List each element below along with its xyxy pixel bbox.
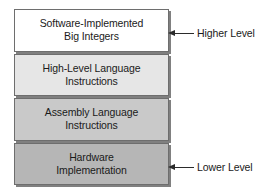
- annotation-lower-level: Lower Level: [168, 160, 253, 174]
- annotation-label-higher-level: Higher Level: [197, 27, 255, 40]
- layer-label-line1: Assembly Language: [45, 106, 138, 119]
- layer-label-line2: Instructions: [65, 75, 118, 88]
- layer-box-high-level-language-instructions[interactable]: High-Level Language Instructions: [14, 54, 169, 97]
- annotation-higher-level: Higher Level: [168, 26, 255, 40]
- layer-label-line2: Big Integers: [64, 30, 119, 43]
- layer-box-assembly-language-instructions[interactable]: Assembly Language Instructions: [14, 98, 169, 141]
- layer-box-hardware-implementation[interactable]: Hardware Implementation: [14, 143, 169, 186]
- arrow-left-icon: [168, 29, 194, 38]
- layer-label-line1: Software-Implemented: [40, 17, 144, 30]
- layer-label-line2: Implementation: [56, 164, 126, 177]
- annotation-label-lower-level: Lower Level: [197, 161, 253, 174]
- layer-box-software-implemented-big-integers[interactable]: Software-Implemented Big Integers: [14, 9, 169, 52]
- layer-label-line1: Hardware: [69, 151, 114, 164]
- abstraction-levels-diagram: Software-Implemented Big Integers High-L…: [0, 0, 263, 196]
- layer-stack: Software-Implemented Big Integers High-L…: [14, 9, 169, 185]
- arrow-left-icon: [168, 163, 194, 172]
- layer-label-line1: High-Level Language: [43, 62, 141, 75]
- layer-label-line2: Instructions: [65, 119, 118, 132]
